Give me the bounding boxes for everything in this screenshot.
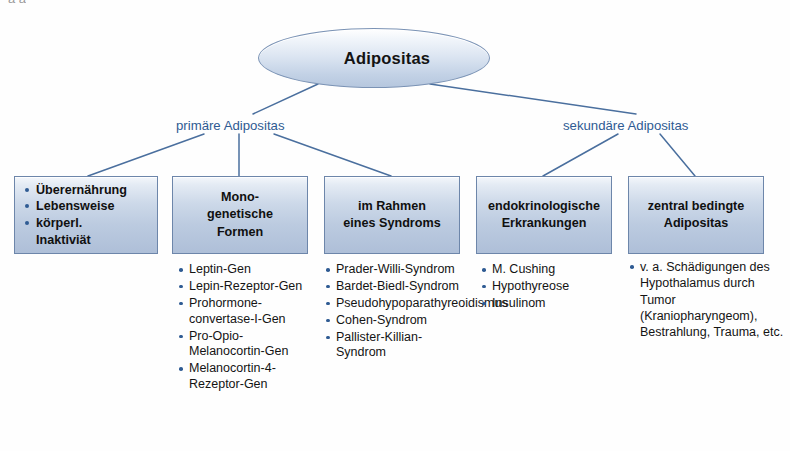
category-box-syndrome: im Rahmeneines Syndroms <box>324 176 460 254</box>
list-item: Lebensweise <box>25 198 127 215</box>
detail-list-syndrome: Prader-Willi-SyndromBardet-Biedl-Syndrom… <box>325 262 470 362</box>
root-node-label: Adipositas <box>318 49 430 68</box>
list-item: Melanocortin-4-Rezeptor-Gen <box>178 361 318 393</box>
list-item: Hypothyreose <box>481 279 621 295</box>
category-box-monogenetic: Mono-genetischeFormen <box>172 176 308 254</box>
list-item: v. a. Schädigungen des Hypothalamus durc… <box>629 259 787 340</box>
branch-label-secondary: sekundäre Adipositas <box>563 118 688 133</box>
list-item: Überernährung <box>25 182 127 199</box>
category-box-endocrine-title: endokrinologischeErkrankungen <box>482 198 606 233</box>
list-item: körperl. <box>25 215 127 232</box>
top-edge-scan-artifact: a a <box>8 0 26 3</box>
wire-root-to-secondary <box>430 84 636 114</box>
category-box-syndrome-title: im Rahmeneines Syndroms <box>337 198 446 233</box>
category-box-central-title: zentral bedingteAdipositas <box>642 198 751 233</box>
list-item: Prader-Willi-Syndrom <box>325 262 470 278</box>
diagram-canvas: a a Adipositas primäre Adipositas sekund… <box>0 0 790 451</box>
list-item: Leptin-Gen <box>178 262 318 278</box>
wire-root-to-primary <box>253 84 318 114</box>
list-item: Lepin-Rezeptor-Gen <box>178 279 318 295</box>
category-box-monogenetic-title: Mono-genetischeFormen <box>201 189 279 241</box>
detail-list-monogenetic: Leptin-GenLepin-Rezeptor-GenProhormone-c… <box>178 262 318 394</box>
detail-list-endocrine: M. CushingHypothyreoseInsulinom <box>481 262 621 313</box>
list-item: Bardet-Biedl-Syndrom <box>325 279 470 295</box>
category-box-endocrine: endokrinologischeErkrankungen <box>476 176 612 254</box>
list-item: Pseudohypoparathyreoidismus <box>325 296 470 312</box>
category-box-central: zentral bedingteAdipositas <box>628 176 764 254</box>
list-item: Pallister-Killian-Syndrom <box>325 330 470 362</box>
category-box-overnutrition-list: Überernährung Lebensweise körperl. Inakt… <box>15 182 131 249</box>
wire-secondary-to-endocrine <box>543 134 618 176</box>
list-item: Prohormone-convertase-I-Gen <box>178 296 318 328</box>
wire-primary-to-syndrome <box>274 134 391 176</box>
list-item: Cohen-Syndrom <box>325 313 470 329</box>
branch-label-primary: primäre Adipositas <box>176 118 284 133</box>
root-node-adipositas: Adipositas <box>258 28 490 88</box>
list-item-continuation: Inaktiviät <box>25 232 127 249</box>
wire-secondary-to-central <box>660 134 695 176</box>
list-item: M. Cushing <box>481 262 621 278</box>
list-item: Pro-Opio-Melanocortin-Gen <box>178 329 318 361</box>
list-item: Insulinom <box>481 296 621 312</box>
category-box-overnutrition: Überernährung Lebensweise körperl. Inakt… <box>14 176 158 254</box>
detail-list-central: v. a. Schädigungen des Hypothalamus durc… <box>629 259 787 341</box>
wire-primary-to-overnutrition <box>88 134 204 176</box>
